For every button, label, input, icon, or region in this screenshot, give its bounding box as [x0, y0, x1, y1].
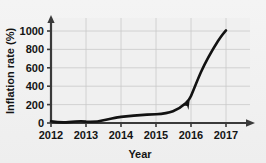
- plot-area-background: [51, 18, 250, 123]
- x-axis-arrowhead: [246, 119, 255, 127]
- x-tick-label-2016: 2016: [179, 129, 203, 141]
- x-tick-label-2013: 2013: [74, 129, 98, 141]
- x-tick-label-2015: 2015: [144, 129, 168, 141]
- y-tick-label-1000: 1000: [20, 25, 44, 37]
- x-axis-title: Year: [128, 148, 152, 160]
- y-tick-label-400: 400: [26, 80, 44, 92]
- x-tick-label-2014: 2014: [109, 129, 134, 141]
- y-tick-label-600: 600: [26, 62, 44, 74]
- y-axis-title: Inflation rate (%): [4, 28, 16, 115]
- y-tick-label-200: 200: [26, 99, 44, 111]
- inflation-rate-line-chart: 0 200 400 600 800 1000 2012 2013 2014 20…: [0, 0, 266, 163]
- y-tick-label-800: 800: [26, 43, 44, 55]
- x-tick-label-2012: 2012: [39, 129, 63, 141]
- chart-figure: 0 200 400 600 800 1000 2012 2013 2014 20…: [0, 0, 266, 163]
- y-tick-label-0: 0: [38, 117, 44, 129]
- x-tick-label-2017: 2017: [214, 129, 238, 141]
